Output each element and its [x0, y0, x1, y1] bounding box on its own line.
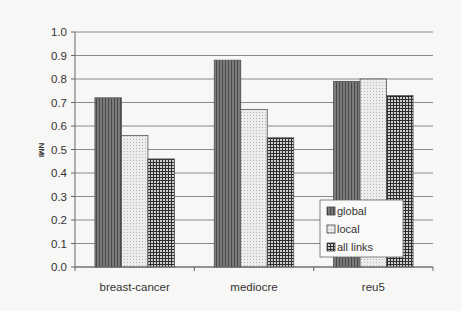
y-tick-label: 0.4 — [51, 167, 68, 179]
legend-swatch — [327, 207, 335, 215]
bar-all-links-mediocre — [267, 138, 294, 267]
y-tick-label: 0.3 — [51, 191, 67, 203]
bar-local-breast-cancer — [121, 135, 147, 267]
bar-local-mediocre — [241, 110, 268, 267]
y-tick-label: 0.8 — [51, 73, 67, 85]
legend-label: local — [337, 223, 360, 235]
y-axis-title: NMI — [37, 143, 46, 158]
x-tick-label: mediocre — [230, 281, 277, 293]
legend: globallocalall links — [320, 200, 403, 257]
x-tick-label: breast-cancer — [100, 281, 170, 293]
y-tick-label: 0.2 — [51, 214, 67, 226]
legend-swatch — [327, 243, 335, 251]
bar-chart: 0.00.10.20.30.40.50.60.70.80.91.0 breast… — [0, 0, 461, 311]
y-axis-ticks: 0.00.10.20.30.40.50.60.70.80.91.0 — [51, 26, 75, 273]
y-tick-label: 0.5 — [51, 144, 67, 156]
x-tick-label: reu5 — [362, 281, 385, 293]
x-axis-labels: breast-cancermediocrereu5 — [100, 281, 385, 293]
y-tick-label: 1.0 — [51, 26, 67, 38]
y-tick-label: 0.6 — [51, 120, 67, 132]
y-tick-label: 0.7 — [51, 97, 67, 109]
y-tick-label: 0.1 — [51, 238, 67, 250]
legend-swatch — [327, 225, 335, 233]
bar-global-mediocre — [214, 60, 241, 267]
bar-global-breast-cancer — [95, 98, 122, 267]
bar-all-links-breast-cancer — [148, 159, 175, 267]
y-tick-label: 0.9 — [51, 50, 67, 62]
legend-label: global — [337, 205, 366, 217]
y-tick-label: 0.0 — [51, 261, 67, 273]
legend-label: all links — [337, 241, 374, 253]
